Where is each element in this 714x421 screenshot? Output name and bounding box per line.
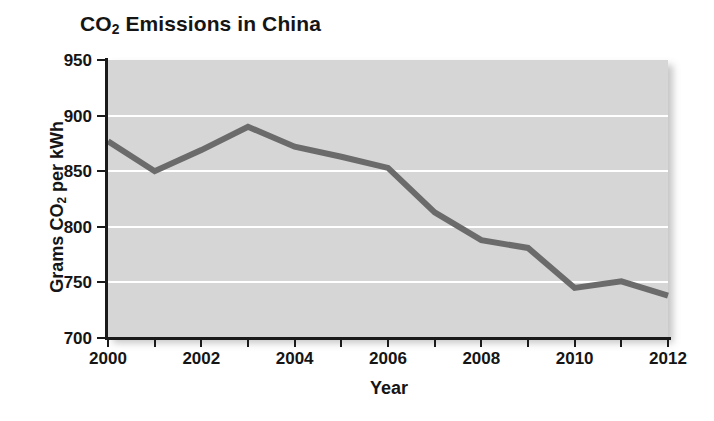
y-axis-title: Grams CO2 per kWh (47, 57, 69, 357)
x-axis-tick (154, 338, 156, 347)
y-axis-tick (97, 281, 106, 283)
y-axis-tick (97, 59, 106, 61)
x-axis-tick-label: 2010 (540, 349, 610, 369)
y-axis-spine (105, 58, 108, 340)
x-axis-tick (527, 338, 529, 347)
x-axis-tick-label: 2004 (260, 349, 330, 369)
plot-area (108, 60, 668, 338)
x-axis-tick (200, 338, 202, 347)
chart-figure: CO2 Emissions in China Grams CO2 per kWh… (0, 0, 714, 421)
x-axis-tick (107, 338, 109, 347)
x-axis-tick (620, 338, 622, 347)
chart-title: CO2 Emissions in China (80, 12, 321, 37)
y-axis-title-subscript: 2 (55, 197, 69, 204)
y-axis-tick-label: 950 (46, 51, 92, 71)
x-axis-title: Year (108, 378, 670, 399)
x-axis-tick (247, 338, 249, 347)
x-axis-tick (340, 338, 342, 347)
y-axis-title-rest: per kWh (47, 121, 67, 197)
x-axis-tick (667, 338, 669, 347)
y-axis-tick-label: 900 (46, 107, 92, 127)
x-axis-tick (480, 338, 482, 347)
x-axis-tick-label: 2006 (353, 349, 423, 369)
x-axis-tick-label: 2008 (446, 349, 516, 369)
x-axis-tick-label: 2002 (166, 349, 236, 369)
y-axis-tick-label: 700 (46, 329, 92, 349)
x-axis-tick-label: 2000 (73, 349, 143, 369)
series-line-co2-emissions (108, 127, 668, 296)
y-axis-tick-label: 750 (46, 273, 92, 293)
chart-title-rest: Emissions in China (120, 12, 321, 35)
chart-title-main: CO (80, 12, 112, 35)
series-line-chart (108, 60, 668, 338)
y-axis-tick-label: 850 (46, 162, 92, 182)
y-axis-tick (97, 337, 106, 339)
y-axis-tick-label: 800 (46, 218, 92, 238)
x-axis-tick-label: 2012 (633, 349, 703, 369)
x-axis-tick (434, 338, 436, 347)
x-axis-tick (294, 338, 296, 347)
y-axis-tick (97, 226, 106, 228)
x-axis-tick (574, 338, 576, 347)
y-axis-tick (97, 170, 106, 172)
chart-title-subscript: 2 (112, 21, 120, 37)
x-axis-tick (387, 338, 389, 347)
y-axis-tick (97, 115, 106, 117)
